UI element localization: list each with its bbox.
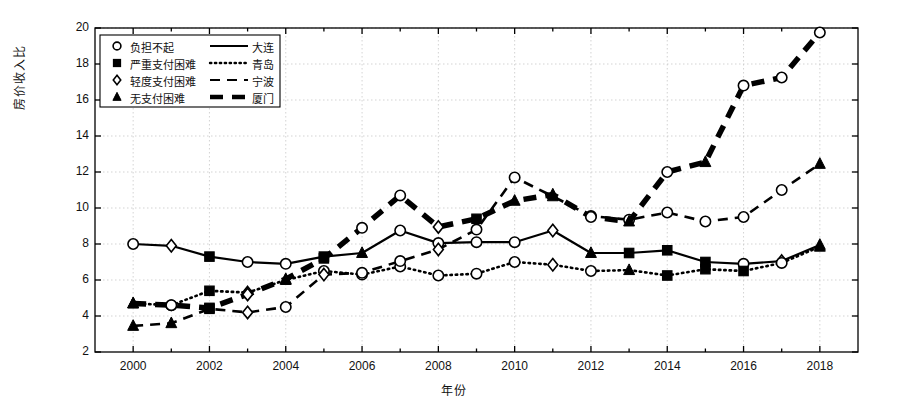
- marker-circle: [471, 237, 481, 247]
- y-tick-label: 12: [65, 164, 89, 178]
- marker-square: [205, 286, 214, 295]
- marker-circle: [777, 72, 787, 82]
- y-tick-label: 2: [65, 344, 89, 358]
- legend-line-label-厦门: 厦门: [252, 90, 274, 106]
- y-tick-label: 20: [65, 20, 89, 34]
- marker-circle: [128, 239, 138, 249]
- marker-square: [701, 265, 710, 274]
- legend-line-label-青岛: 青岛: [252, 56, 274, 72]
- marker-circle: [662, 207, 672, 217]
- marker-circle: [586, 212, 596, 222]
- marker-circle: [509, 237, 519, 247]
- x-tick-label: 2014: [647, 359, 687, 373]
- marker-circle: [357, 223, 367, 233]
- legend-marker-label-square: 严重支付困难: [130, 56, 196, 72]
- x-tick-label: 2002: [189, 359, 229, 373]
- marker-square: [205, 252, 214, 261]
- marker-circle: [777, 258, 787, 268]
- marker-circle: [113, 42, 121, 50]
- x-tick-label: 2000: [113, 359, 153, 373]
- y-tick-label: 16: [65, 92, 89, 106]
- marker-circle: [700, 216, 710, 226]
- x-tick-label: 2010: [495, 359, 535, 373]
- marker-square: [205, 303, 214, 312]
- marker-circle: [166, 300, 176, 310]
- marker-circle: [509, 257, 519, 267]
- marker-circle: [242, 257, 252, 267]
- legend-line-label-宁波: 宁波: [252, 73, 274, 89]
- x-tick-label: 2008: [418, 359, 458, 373]
- marker-square: [319, 254, 328, 263]
- y-tick-label: 4: [65, 308, 89, 322]
- y-axis-label: 房价收入比: [10, 12, 27, 142]
- x-tick-label: 2012: [571, 359, 611, 373]
- marker-square: [472, 214, 481, 223]
- marker-square: [663, 246, 672, 255]
- y-tick-label: 6: [65, 272, 89, 286]
- x-tick-label: 2016: [724, 359, 764, 373]
- marker-circle: [471, 269, 481, 279]
- y-tick-label: 14: [65, 128, 89, 142]
- legend-marker-label-circle: 负担不起: [130, 39, 174, 55]
- y-tick-label: 18: [65, 56, 89, 70]
- legend-line-label-大连: 大连: [252, 39, 274, 55]
- x-tick-label: 2006: [342, 359, 382, 373]
- marker-circle: [586, 266, 596, 276]
- marker-square: [739, 266, 748, 275]
- marker-circle: [471, 224, 481, 234]
- marker-square: [624, 248, 633, 257]
- marker-circle: [395, 190, 405, 200]
- x-tick-label: 2018: [800, 359, 840, 373]
- marker-circle: [815, 27, 825, 37]
- x-tick-label: 2004: [266, 359, 306, 373]
- marker-circle: [357, 268, 367, 278]
- marker-circle: [281, 302, 291, 312]
- y-tick-label: 8: [65, 236, 89, 250]
- y-tick-label: 10: [65, 200, 89, 214]
- marker-square: [663, 271, 672, 280]
- marker-circle: [395, 256, 405, 266]
- marker-circle: [433, 270, 443, 280]
- legend-marker-label-diamond: 轻度支付困难: [130, 73, 196, 89]
- marker-circle: [395, 225, 405, 235]
- marker-circle: [662, 167, 672, 177]
- marker-square: [113, 59, 120, 66]
- marker-circle: [738, 80, 748, 90]
- legend-marker-label-triangle: 无支付困难: [130, 90, 185, 106]
- marker-circle: [509, 172, 519, 182]
- marker-circle: [281, 259, 291, 269]
- x-axis-label: 年份: [0, 381, 907, 398]
- marker-circle: [777, 185, 787, 195]
- marker-circle: [738, 212, 748, 222]
